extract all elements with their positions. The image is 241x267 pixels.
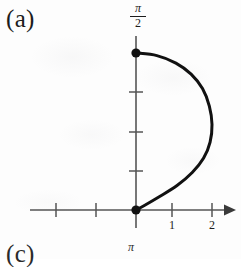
next-figure-axis-label-partial: π: [128, 241, 134, 253]
endpoint-marker-top: [131, 48, 140, 57]
x-axis-arrowhead-icon: [224, 205, 236, 216]
panel-label-c-partial: (c): [6, 241, 35, 266]
endpoint-marker-origin: [131, 205, 140, 214]
curve-arc: [136, 53, 212, 210]
x-axis-tick-label-1: 1: [165, 219, 179, 231]
x-axis-tick-label-2: 2: [205, 219, 219, 231]
